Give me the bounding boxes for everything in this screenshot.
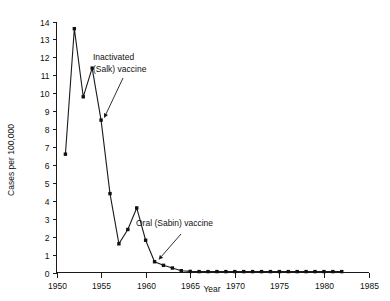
data-point-marker: [322, 270, 325, 273]
data-point-marker: [180, 269, 183, 272]
x-tick-label: 1955: [92, 281, 111, 291]
data-point-marker: [331, 270, 334, 273]
y-tick-label: 9: [45, 107, 50, 117]
data-point-marker: [162, 264, 165, 267]
data-point-marker: [82, 95, 85, 98]
data-point-marker: [224, 270, 227, 273]
data-point-marker: [64, 152, 67, 155]
y-tick-label: 12: [40, 53, 50, 63]
chart-background: [0, 0, 390, 301]
data-point-marker: [251, 270, 254, 273]
data-point-marker: [295, 270, 298, 273]
annotation-salk-line2: (Salk) vaccine: [93, 64, 147, 74]
data-point-marker: [108, 192, 111, 195]
data-point-marker: [189, 270, 192, 273]
x-tick-label: 1965: [181, 281, 200, 291]
chart-canvas: 01234567891011121314 Cases per 100,000 1…: [0, 0, 390, 301]
data-point-marker: [260, 270, 263, 273]
x-tick-label: 1960: [137, 281, 156, 291]
y-axis-title: Cases per 100,000: [6, 124, 16, 196]
y-tick-label: 6: [45, 161, 50, 171]
x-tick-label: 1985: [360, 281, 379, 291]
data-point-marker: [135, 206, 138, 209]
y-tick-label: 10: [40, 89, 50, 99]
annotation-salk-line1: Inactivated: [93, 52, 134, 62]
data-point-marker: [153, 260, 156, 263]
data-point-marker: [117, 242, 120, 245]
y-tick-label: 14: [40, 18, 50, 28]
y-tick-label: 4: [45, 197, 50, 207]
y-tick-label: 8: [45, 125, 50, 135]
data-point-marker: [340, 270, 343, 273]
y-tick-label: 7: [45, 143, 50, 153]
data-point-marker: [215, 270, 218, 273]
data-point-marker: [99, 118, 102, 121]
y-tick-label: 13: [40, 35, 50, 45]
annotation-sabin-line1: Oral (Sabin) vaccine: [136, 218, 213, 228]
data-point-marker: [269, 270, 272, 273]
y-tick-label: 5: [45, 179, 50, 189]
x-tick-label: 1950: [48, 281, 67, 291]
x-tick-label: 1980: [315, 281, 334, 291]
x-tick-label: 1970: [226, 281, 245, 291]
data-point-marker: [304, 270, 307, 273]
data-point-marker: [171, 266, 174, 269]
y-tick-label: 0: [45, 269, 50, 279]
x-tick-label: 1975: [270, 281, 289, 291]
data-point-marker: [126, 228, 129, 231]
data-point-marker: [197, 270, 200, 273]
data-point-marker: [242, 270, 245, 273]
y-tick-label: 2: [45, 233, 50, 243]
y-tick-label: 1: [45, 251, 50, 261]
y-tick-label: 11: [41, 71, 50, 81]
data-point-marker: [144, 239, 147, 242]
data-point-marker: [233, 270, 236, 273]
data-point-marker: [278, 270, 281, 273]
data-point-marker: [206, 270, 209, 273]
y-tick-label: 3: [45, 215, 50, 225]
polio-incidence-chart: 01234567891011121314 Cases per 100,000 1…: [0, 0, 390, 301]
x-axis-title: Year: [203, 284, 220, 294]
data-point-marker: [287, 270, 290, 273]
data-point-marker: [73, 27, 76, 30]
data-point-marker: [313, 270, 316, 273]
